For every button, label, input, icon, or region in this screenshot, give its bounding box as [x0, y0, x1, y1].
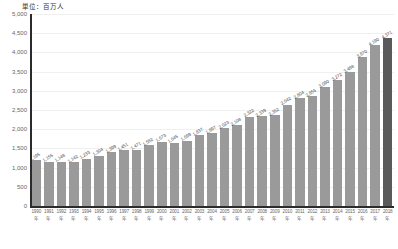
y-tick-label: 0	[24, 203, 27, 209]
bar[interactable]	[207, 133, 217, 206]
x-tick-year-suffix: 年	[181, 215, 194, 221]
bar-slot: 2,322	[243, 14, 256, 206]
x-tick-year: 2016	[356, 209, 369, 214]
x-tick-year: 2015	[344, 209, 357, 214]
x-tick-year: 2003	[193, 209, 206, 214]
x-tick-year: 1993	[68, 209, 81, 214]
bar[interactable]	[44, 162, 54, 206]
x-tick-year: 2004	[206, 209, 219, 214]
bar-slot: 1,399	[105, 14, 118, 206]
x-tick-label: 1995年	[93, 209, 106, 221]
x-tick-year-suffix: 年	[43, 215, 56, 221]
bar[interactable]	[57, 162, 67, 206]
x-tick-year-suffix: 年	[105, 215, 118, 221]
y-tick-label: 5,000	[12, 11, 27, 17]
x-tick-label: 2016年	[356, 209, 369, 221]
bar[interactable]	[32, 160, 42, 206]
bar-slot: 2,108	[231, 14, 244, 206]
x-tick-year: 2009	[268, 209, 281, 214]
y-tick-label: 4,000	[12, 49, 27, 55]
x-tick-label: 2012年	[306, 209, 319, 221]
x-tick-label: 1993年	[68, 209, 81, 221]
bar-slot: 3,090	[319, 14, 332, 206]
bar-slot: 1,304	[93, 14, 106, 206]
bar[interactable]	[107, 152, 117, 206]
bar-slot: 4,190	[369, 14, 382, 206]
bar-slot: 1,471	[130, 14, 143, 206]
x-tick-year: 2014	[331, 209, 344, 214]
bar[interactable]	[308, 96, 318, 206]
x-tick-year: 1991	[43, 209, 56, 214]
x-tick-year: 2008	[256, 209, 269, 214]
x-tick-label: 2000年	[156, 209, 169, 221]
bar-slot: 1,148	[55, 14, 68, 206]
x-tick-label: 1992年	[55, 209, 68, 221]
bar[interactable]	[69, 162, 79, 206]
bar[interactable]	[170, 143, 180, 206]
bar-slot: 2,804	[294, 14, 307, 206]
x-tick-year-suffix: 年	[130, 215, 143, 221]
bar-slot: 1,897	[206, 14, 219, 206]
bar[interactable]	[283, 105, 293, 206]
bar-slot: 2,642	[281, 14, 294, 206]
x-tick-year: 1994	[80, 209, 93, 214]
x-axis-tick-labels: 1990年1991年1992年1993年1994年1995年1996年1997年…	[30, 209, 394, 245]
x-tick-label: 2017年	[369, 209, 382, 221]
x-tick-year: 2010	[281, 209, 294, 214]
x-tick-label: 1997年	[118, 209, 131, 221]
y-tick-label: 4,500	[12, 30, 27, 36]
bar[interactable]	[195, 135, 205, 206]
y-axis-line	[30, 14, 32, 207]
bar[interactable]	[94, 156, 104, 206]
x-tick-year-suffix: 年	[281, 215, 294, 221]
bar[interactable]	[82, 159, 92, 206]
bar[interactable]	[132, 150, 142, 206]
x-tick-label: 1990年	[30, 209, 43, 221]
bar[interactable]	[245, 117, 255, 206]
x-tick-year: 2005	[218, 209, 231, 214]
bar[interactable]	[270, 115, 280, 206]
bar[interactable]	[345, 72, 355, 206]
bar-slot: 2,362	[268, 14, 281, 206]
y-axis-tick-labels: 5,0004,5004,0003,5003,0002,5002,0001,500…	[0, 0, 30, 249]
bar[interactable]	[119, 150, 129, 206]
bar-slot: 1,837	[193, 14, 206, 206]
bar[interactable]	[182, 141, 192, 206]
x-tick-label: 2004年	[206, 209, 219, 221]
bar[interactable]	[144, 145, 154, 206]
bar[interactable]	[232, 125, 242, 206]
x-tick-label: 2011年	[294, 209, 307, 221]
bar[interactable]	[320, 87, 330, 206]
x-tick-year: 1997	[118, 209, 131, 214]
bar-slot: 3,272	[331, 14, 344, 206]
y-tick-label: 1,000	[12, 165, 27, 171]
bar[interactable]	[358, 57, 368, 206]
bar[interactable]	[370, 45, 380, 206]
x-tick-year: 1998	[130, 209, 143, 214]
x-tick-label: 2001年	[168, 209, 181, 221]
x-tick-year-suffix: 年	[369, 215, 382, 221]
x-tick-year-suffix: 年	[168, 215, 181, 221]
bar[interactable]	[295, 98, 305, 206]
x-tick-label: 2006年	[231, 209, 244, 221]
bar[interactable]	[383, 38, 393, 206]
x-tick-year-suffix: 年	[231, 215, 244, 221]
bar[interactable]	[257, 116, 267, 206]
x-tick-year-suffix: 年	[306, 215, 319, 221]
x-tick-year: 2001	[168, 209, 181, 214]
bar-slot: 1,582	[143, 14, 156, 206]
x-tick-year: 2013	[319, 209, 332, 214]
x-tick-year-suffix: 年	[193, 215, 206, 221]
bar-slot: 1,451	[118, 14, 131, 206]
x-tick-year: 2012	[306, 209, 319, 214]
x-tick-year: 2011	[294, 209, 307, 214]
x-tick-year: 2017	[369, 209, 382, 214]
bar[interactable]	[333, 80, 343, 206]
bar-chart: 単位：百万人 5,0004,5004,0003,5003,0002,5002,0…	[0, 0, 398, 249]
bar[interactable]	[220, 128, 230, 206]
x-tick-label: 2018年	[381, 209, 394, 221]
bar-slot: 3,488	[344, 14, 357, 206]
bar[interactable]	[157, 142, 167, 206]
x-tick-year-suffix: 年	[294, 215, 307, 221]
x-tick-year-suffix: 年	[218, 215, 231, 221]
